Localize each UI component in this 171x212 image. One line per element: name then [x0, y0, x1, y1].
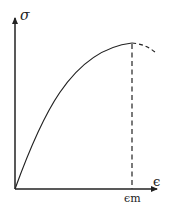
y-axis-label: σ — [20, 8, 30, 22]
stress-strain-curve — [15, 43, 132, 189]
stress-strain-diagram — [0, 0, 171, 212]
curve-dashed-continuation — [132, 43, 156, 53]
x-axis-label: ϵ — [153, 175, 160, 188]
max-strain-label: ϵm — [124, 193, 141, 204]
